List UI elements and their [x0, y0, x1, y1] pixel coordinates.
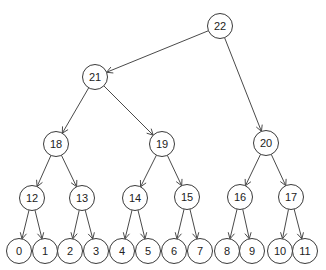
node-label: 4 — [119, 245, 125, 257]
node-label: 20 — [260, 137, 272, 149]
edge-16-to-9 — [243, 209, 251, 239]
tree-node-0: 0 — [7, 239, 32, 264]
node-label: 17 — [285, 191, 297, 203]
edge-12-to-0 — [20, 210, 29, 239]
tree-node-18: 18 — [44, 132, 69, 157]
edge-line — [37, 155, 51, 186]
tree-node-10: 10 — [268, 239, 293, 264]
edge-14-to-5 — [138, 210, 147, 239]
edge-14-to-4 — [123, 210, 132, 239]
edge-19-to-14 — [140, 155, 156, 187]
tree-node-22: 22 — [208, 14, 233, 39]
edge-line — [282, 209, 288, 239]
edge-20-to-17 — [271, 154, 286, 185]
tree-node-5: 5 — [136, 239, 161, 264]
edge-17-to-11 — [294, 209, 303, 239]
edge-line — [61, 155, 76, 186]
tree-node-3: 3 — [84, 239, 109, 264]
node-label: 19 — [156, 138, 168, 150]
edge-18-to-13 — [61, 155, 76, 186]
node-label: 15 — [181, 191, 193, 203]
tree-diagram: 222118192012131415161701234567891011 — [0, 0, 326, 270]
tree-node-1: 1 — [33, 239, 58, 264]
tree-node-19: 19 — [150, 132, 175, 157]
edge-line — [62, 88, 88, 133]
node-label: 3 — [93, 245, 99, 257]
tree-node-14: 14 — [123, 186, 148, 211]
tree-node-12: 12 — [20, 186, 45, 211]
edge-line — [245, 154, 260, 185]
edge-12-to-1 — [35, 210, 44, 239]
node-label: 6 — [171, 245, 177, 257]
tree-node-11: 11 — [293, 239, 318, 264]
node-label: 8 — [224, 245, 230, 257]
edge-21-to-18 — [62, 88, 88, 133]
edge-15-to-6 — [175, 209, 184, 239]
node-label: 22 — [214, 20, 226, 32]
node-label: 9 — [249, 245, 255, 257]
edge-22-to-21 — [107, 31, 209, 73]
node-label: 10 — [274, 245, 286, 257]
node-label: 18 — [50, 138, 62, 150]
edge-line — [104, 86, 153, 135]
edge-21-to-19 — [104, 86, 153, 135]
node-label: 14 — [129, 192, 141, 204]
nodes-group: 222118192012131415161701234567891011 — [7, 14, 318, 264]
node-label: 21 — [89, 71, 101, 83]
node-label: 12 — [26, 192, 38, 204]
tree-node-9: 9 — [240, 239, 265, 264]
node-label: 1 — [42, 245, 48, 257]
edge-line — [107, 31, 209, 73]
edge-13-to-2 — [71, 210, 79, 239]
edge-20-to-16 — [245, 154, 260, 185]
node-label: 7 — [197, 245, 203, 257]
node-label: 0 — [16, 245, 22, 257]
node-label: 11 — [299, 245, 310, 257]
edge-16-to-8 — [228, 209, 237, 239]
edge-18-to-12 — [37, 155, 51, 186]
node-label: 16 — [234, 191, 246, 203]
tree-node-13: 13 — [70, 186, 95, 211]
tree-node-20: 20 — [254, 131, 279, 156]
tree-node-2: 2 — [58, 239, 83, 264]
edge-17-to-10 — [281, 209, 289, 239]
tree-node-4: 4 — [110, 239, 135, 264]
edge-15-to-7 — [190, 209, 199, 239]
tree-node-8: 8 — [215, 239, 240, 264]
tree-node-17: 17 — [279, 185, 304, 210]
node-label: 13 — [76, 192, 88, 204]
edge-line — [225, 38, 262, 132]
edge-19-to-15 — [167, 155, 182, 185]
tree-node-7: 7 — [188, 239, 213, 264]
node-label: 5 — [145, 245, 151, 257]
node-label: 2 — [67, 245, 73, 257]
edge-line — [271, 154, 285, 185]
tree-node-16: 16 — [228, 185, 253, 210]
edge-22-to-20 — [225, 38, 263, 132]
tree-node-15: 15 — [175, 185, 200, 210]
edge-13-to-3 — [85, 210, 94, 239]
edge-line — [141, 155, 157, 187]
tree-node-21: 21 — [83, 65, 108, 90]
tree-node-6: 6 — [162, 239, 187, 264]
edge-line — [167, 155, 181, 185]
